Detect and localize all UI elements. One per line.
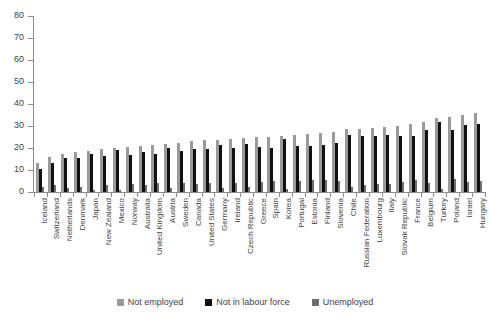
x-tick-label: Chile (350, 198, 358, 216)
bar-unemployed (54, 185, 56, 192)
y-tick-label: 70 (0, 32, 24, 42)
x-tick-label: Netherlands (66, 198, 74, 241)
x-tick-label: France (414, 198, 422, 223)
bar-group (126, 16, 137, 192)
bars-layer (34, 16, 485, 192)
bar-group (242, 16, 253, 192)
bar-unemployed (428, 183, 430, 192)
bar-chart: 01020304050607080 IcelandSwitzerlandNeth… (0, 0, 490, 320)
bar-group (100, 16, 111, 192)
x-tick-label: Poland (453, 198, 461, 223)
x-tick-mark (124, 192, 125, 197)
bar-unemployed (364, 185, 366, 192)
x-tick-label: Korea (285, 198, 293, 219)
bar-group (190, 16, 201, 192)
bar-not-in-lf (90, 154, 93, 193)
bar-group (48, 16, 59, 192)
x-tick-label: Hungary (479, 198, 487, 228)
bar-unemployed (299, 181, 301, 192)
x-tick-mark (408, 192, 409, 197)
x-tick-mark (395, 192, 396, 197)
bar-group (448, 16, 459, 192)
x-tick-label: Mexico (118, 198, 126, 223)
bar-group (229, 16, 240, 192)
x-tick-label: Norway (131, 198, 139, 225)
x-tick-mark (317, 192, 318, 197)
x-tick-label: Canada (195, 198, 203, 226)
bar-group (332, 16, 343, 192)
bar-group (358, 16, 369, 192)
x-tick-label: Austria (169, 198, 177, 223)
x-tick-label: Ireland (234, 198, 242, 222)
bar-unemployed (377, 184, 379, 192)
bar-group (203, 16, 214, 192)
x-tick-mark (305, 192, 306, 197)
bar-group (306, 16, 317, 192)
bar-group (74, 16, 85, 192)
legend-swatch-icon (205, 299, 212, 306)
y-tick-mark (28, 82, 33, 83)
x-tick-mark (485, 192, 486, 197)
bar-group (409, 16, 420, 192)
x-tick-mark (343, 192, 344, 197)
bar-not-in-lf (348, 135, 351, 192)
x-tick-label: United Kingdom (156, 198, 164, 255)
x-tick-label: Finland (324, 198, 332, 224)
x-tick-label: Czech Republic (247, 198, 255, 254)
y-tick-label: 50 (0, 76, 24, 86)
x-tick-mark (330, 192, 331, 197)
bar-unemployed (454, 179, 456, 192)
x-tick-mark (240, 192, 241, 197)
bar-unemployed (145, 185, 147, 192)
x-tick-mark (34, 192, 35, 197)
x-tick-mark (446, 192, 447, 197)
bar-unemployed (325, 180, 327, 192)
bar-unemployed (209, 183, 211, 192)
bar-group (164, 16, 175, 192)
bar-group (267, 16, 278, 192)
bar-unemployed (338, 181, 340, 192)
x-tick-label: Japan (92, 198, 100, 220)
x-tick-mark (189, 192, 190, 197)
x-tick-label: Portugal (298, 198, 306, 228)
bar-group (435, 16, 446, 192)
legend-label: Not employed (128, 297, 184, 307)
x-tick-label: United States (208, 198, 216, 246)
bar-group (255, 16, 266, 192)
y-tick-label: 10 (0, 164, 24, 174)
bar-unemployed (261, 182, 263, 192)
x-tick-mark (150, 192, 151, 197)
x-tick-label: Switzerland (53, 198, 61, 239)
bar-group (139, 16, 150, 192)
x-tick-mark (227, 192, 228, 197)
bar-group (383, 16, 394, 192)
y-tick-mark (28, 192, 33, 193)
bar-not-in-lf (361, 136, 364, 192)
x-tick-label: Russian Federation (363, 198, 371, 267)
x-tick-mark (253, 192, 254, 197)
bar-group (319, 16, 330, 192)
y-tick-label: 30 (0, 120, 24, 130)
bar-unemployed (106, 185, 108, 192)
bar-not-in-lf (283, 139, 286, 192)
legend-item[interactable]: Not in labour force (205, 297, 290, 307)
x-tick-mark (111, 192, 112, 197)
x-tick-mark (47, 192, 48, 197)
x-tick-mark (421, 192, 422, 197)
x-tick-mark (266, 192, 267, 197)
bar-unemployed (402, 182, 404, 192)
bar-unemployed (157, 183, 159, 192)
bar-unemployed (235, 183, 237, 192)
legend-item[interactable]: Unemployed (312, 297, 374, 307)
x-tick-mark (98, 192, 99, 197)
bar-unemployed (415, 180, 417, 192)
bar-not-in-lf (116, 150, 119, 192)
legend-label: Unemployed (323, 297, 374, 307)
legend-item[interactable]: Not employed (117, 297, 184, 307)
x-tick-mark (163, 192, 164, 197)
bar-not-in-lf (167, 148, 170, 192)
x-tick-label: Slovak Republic (401, 198, 409, 255)
x-tick-label: Slovenia (337, 198, 345, 229)
x-axis-labels: IcelandSwitzerlandNetherlandsDenmarkJapa… (34, 198, 485, 290)
x-tick-label: New Zealand (105, 198, 113, 245)
